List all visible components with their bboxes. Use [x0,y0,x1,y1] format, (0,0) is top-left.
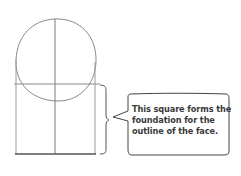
callout-line-2: foundation for the [132,115,228,126]
callout-line-3: outline of the face. [132,126,228,137]
callout-text: This square forms the foundation for the… [132,104,228,136]
callout-line-1: This square forms the [132,104,228,115]
head-circle [16,19,96,101]
face-construction-diagram [0,0,241,176]
brace [100,85,109,154]
